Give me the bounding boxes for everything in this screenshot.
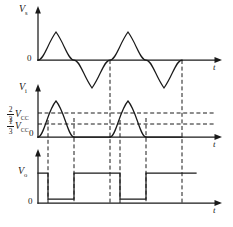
- vcc-symbol-lower: VCC: [15, 121, 29, 133]
- vs-axis-label: Vs: [19, 4, 28, 17]
- vi-hump-2: [110, 101, 146, 137]
- waveform-svg: [0, 0, 233, 227]
- vi-hump-1: [38, 101, 74, 137]
- vs-origin-label: 0: [27, 54, 32, 63]
- vo-time-axis-label: t: [213, 206, 216, 215]
- vi-y-axis: [35, 84, 41, 137]
- vi-axis-label: Vi: [19, 82, 27, 95]
- vi-origin-label: 0: [29, 129, 34, 138]
- fraction-one-third: 1 3: [7, 118, 14, 136]
- vs-x-axis: [38, 57, 222, 63]
- vo-square-wave: [38, 173, 196, 199]
- waveform-figure: Vs 0 t Vi 2 3 VCC 1 3 VCC 0 t Vo 0 t: [0, 0, 233, 227]
- vo-axis-label: Vo: [18, 166, 27, 179]
- threshold-label-one-third-vcc: 1 3 VCC: [7, 118, 29, 136]
- vs-y-axis: [35, 6, 41, 60]
- vs-time-axis-label: t: [213, 63, 216, 72]
- vo-y-axis: [35, 149, 41, 203]
- vo-origin-label: 0: [28, 197, 33, 206]
- vo-x-axis: [38, 200, 222, 206]
- vi-time-axis-label: t: [213, 140, 216, 149]
- vi-x-axis: [38, 134, 222, 140]
